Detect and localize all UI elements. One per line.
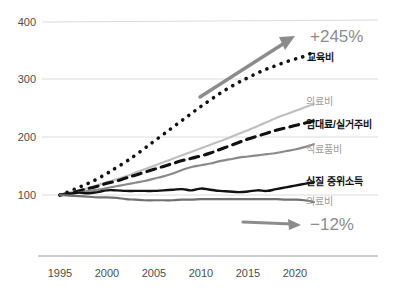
line-chart: 400 300 200 100 1995 2000 2005 2010 2015…: [0, 0, 412, 299]
growth-arrow: [200, 36, 295, 97]
series-label-medical-bottom: 의료비: [306, 196, 333, 207]
ytick-label-300: 300: [18, 73, 36, 85]
series-label-education: 교육비: [307, 51, 334, 63]
xtick-label-2020: 2020: [283, 267, 307, 279]
series-line-medical-bottom: [60, 195, 314, 202]
series-label-real-median-income: 실질 중위소득: [306, 175, 363, 187]
series-label-groceries: 식료품비: [306, 144, 342, 155]
series-label-rent-housing: 임대료/실거주비: [306, 118, 372, 130]
x-axis-labels: 1995 2000 2005 2010 2015 2020: [48, 267, 307, 279]
series-line-education: [60, 52, 314, 195]
xtick-label-2000: 2000: [95, 267, 119, 279]
decline-annotation-text: −12%: [310, 215, 354, 234]
xtick-label-2015: 2015: [236, 267, 260, 279]
xtick-label-1995: 1995: [48, 267, 72, 279]
ytick-label-400: 400: [18, 16, 36, 28]
chart-container: 400 300 200 100 1995 2000 2005 2010 2015…: [0, 0, 412, 299]
series-layer: [60, 52, 314, 202]
growth-annotation-text: +245%: [310, 27, 363, 46]
series-line-medical-top: [60, 104, 314, 195]
y-axis-labels: 400 300 200 100: [18, 16, 36, 201]
gridline-400: [42, 20, 378, 22]
decline-arrow: [243, 219, 301, 230]
xtick-label-2005: 2005: [142, 267, 166, 279]
ytick-label-100: 100: [18, 189, 36, 201]
xtick-label-2010: 2010: [189, 267, 213, 279]
ytick-label-200: 200: [18, 131, 36, 143]
series-label-medical-top: 의료비: [306, 96, 333, 107]
